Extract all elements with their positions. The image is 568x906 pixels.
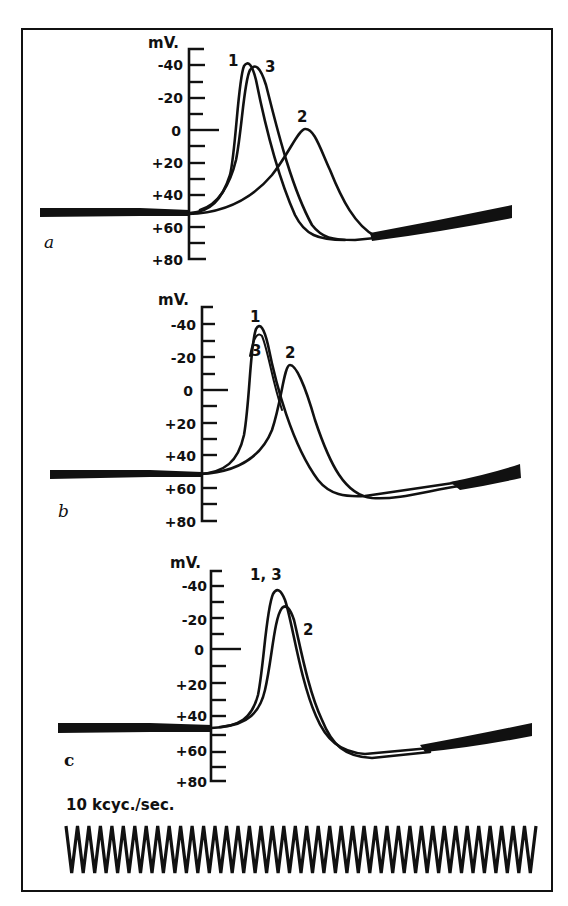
panel-b-tick-label: +80 bbox=[165, 514, 196, 530]
panel-b-curve-label-2: 2 bbox=[285, 344, 295, 362]
panel-b-unit-label: mV. bbox=[158, 291, 189, 309]
panel-b-trace-2 bbox=[200, 365, 460, 498]
panel-a-curve-label-1: 1 bbox=[228, 52, 238, 70]
panel-a-tick-label: 0 bbox=[171, 123, 181, 139]
panel-b-tick-label: +40 bbox=[165, 448, 196, 464]
panel-c-tick-label: -40 bbox=[182, 578, 208, 594]
panel-a-curve-label-3: 3 bbox=[265, 58, 275, 76]
panel-a: mV. -40 -20 0 +20 +40 +60 +80 a bbox=[40, 34, 512, 268]
panel-a-tick-label: +20 bbox=[152, 155, 183, 171]
panel-b-curve-label-1: 1 bbox=[250, 308, 260, 326]
panel-c-baseline bbox=[58, 723, 212, 733]
panel-c-tick-label: +40 bbox=[176, 708, 207, 724]
figure: mV. -40 -20 0 +20 +40 +60 +80 a bbox=[0, 0, 568, 906]
panel-b-tick-label: -20 bbox=[171, 350, 197, 366]
panel-c-tick-label: +80 bbox=[176, 774, 207, 790]
panel-b-tick-label: -40 bbox=[171, 317, 197, 333]
panel-b-ticks bbox=[202, 324, 228, 504]
panel-a-tick-label: +80 bbox=[152, 252, 183, 268]
panel-c: mV. -40 -20 0 +20 +40 +60 +80 c bbox=[58, 554, 532, 790]
panel-b-tick-label: 0 bbox=[183, 383, 193, 399]
panel-c-ticks bbox=[211, 586, 241, 767]
panel-b-tick-label: +60 bbox=[165, 481, 196, 497]
panel-c-trace-2 bbox=[220, 607, 430, 759]
panel-b: mV. -40 -20 0 +20 +40 +60 +80 b 1 bbox=[50, 291, 521, 530]
panel-a-baseline bbox=[40, 208, 190, 217]
panel-c-unit-label: mV. bbox=[170, 554, 201, 572]
panel-b-curve-label-3: 3 bbox=[251, 342, 261, 360]
panel-c-tick-label: +60 bbox=[176, 743, 207, 759]
panel-c-trace-1-3 bbox=[211, 590, 430, 754]
panel-a-ticks bbox=[189, 65, 219, 243]
panel-a-tick-label: +40 bbox=[152, 187, 183, 203]
panel-c-tick-label: 0 bbox=[194, 642, 204, 658]
panel-c-label: c bbox=[64, 750, 74, 770]
panel-c-curve-label-2: 2 bbox=[303, 621, 313, 639]
panel-b-label: b bbox=[58, 501, 69, 521]
panel-c-recovery-band bbox=[420, 723, 532, 752]
panel-b-trace-1 bbox=[200, 326, 460, 496]
panel-a-label: a bbox=[44, 232, 54, 252]
panel-c-tick-label: +20 bbox=[176, 677, 207, 693]
panel-b-tick-label: +20 bbox=[165, 416, 196, 432]
panel-c-tick-label: -20 bbox=[182, 612, 208, 628]
panel-a-recovery-band bbox=[370, 205, 512, 241]
calibration-wave bbox=[66, 826, 536, 873]
calibration: 10 kcyc./sec. bbox=[66, 796, 536, 873]
panel-b-baseline bbox=[50, 470, 202, 479]
panel-a-tick-label: +60 bbox=[152, 220, 183, 236]
calibration-label: 10 kcyc./sec. bbox=[66, 796, 175, 814]
panel-a-unit-label: mV. bbox=[148, 34, 179, 52]
panel-a-tick-label: -20 bbox=[158, 90, 184, 106]
panel-a-curve-label-2: 2 bbox=[297, 108, 307, 126]
panel-a-tick-label: -40 bbox=[158, 57, 184, 73]
panel-c-curve-label-1-3: 1, 3 bbox=[250, 566, 282, 584]
